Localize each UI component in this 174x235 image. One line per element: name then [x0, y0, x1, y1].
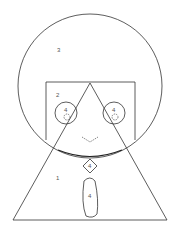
- big-circle: [18, 14, 162, 158]
- label-right-circle: 4: [112, 107, 116, 113]
- label-left-circle: 4: [64, 107, 68, 113]
- rectangle: [46, 82, 135, 140]
- left-dashed-circle: [64, 114, 70, 120]
- left-circle: [55, 102, 77, 124]
- right-dashed-circle: [112, 114, 118, 120]
- right-circle: [103, 102, 125, 124]
- triangle: [13, 83, 167, 220]
- label-big-circle: 3: [57, 47, 61, 53]
- label-triangle: 1: [56, 175, 60, 181]
- dashed-v-mark: [82, 137, 98, 142]
- label-oval: 4: [88, 193, 92, 199]
- label-rectangle: 2: [56, 92, 60, 98]
- circle-overlap-arc: [58, 150, 122, 157]
- shape-diagram: 3 2 1 4 4 4 4: [0, 0, 174, 235]
- label-diamond: 4: [88, 163, 92, 169]
